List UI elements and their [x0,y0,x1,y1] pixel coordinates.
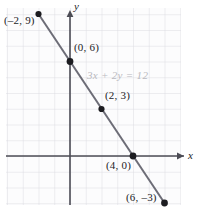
data-point [67,58,74,65]
point-label-4-0: (4, 0) [106,159,131,171]
point-label-2-3: (2, 3) [105,89,130,101]
x-axis-label: x [188,149,193,161]
point-label-0-6: (0, 6) [74,41,99,53]
grid-lines [6,8,181,205]
graph-canvas [0,0,202,215]
data-point [98,106,104,112]
coordinate-plane-figure: (–2, 9) (0, 6) (2, 3) (4, 0) (6, –3) 3x … [0,0,202,215]
equation-annotation: 3x + 2y = 12 [87,69,148,81]
point-label-6-neg3: (6, –3) [126,191,157,203]
data-point [35,11,41,17]
data-point [161,200,168,207]
point-label-neg2-9: (–2, 9) [4,14,35,26]
y-axis-label: y [74,0,79,12]
